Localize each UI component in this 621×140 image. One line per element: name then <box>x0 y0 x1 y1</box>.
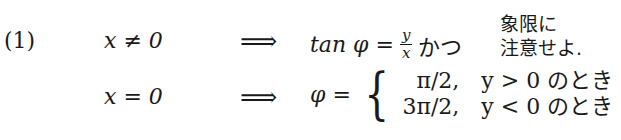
quadrant-note: 象限に 注意せよ. <box>500 12 582 60</box>
fraction-numerator: y <box>400 28 412 45</box>
item-number: (1) <box>4 28 35 53</box>
connector-katsu: かつ <box>418 29 462 61</box>
fraction-y-over-x: y x <box>400 28 412 61</box>
case-value: 3π/2, <box>402 94 459 120</box>
left-brace-icon: { <box>364 66 389 122</box>
cases-list: π/2, y > 0 のとき 3π/2, y < 0 のとき <box>402 68 613 120</box>
case-condition: y < 0 のとき <box>481 94 613 120</box>
note-line-2: 注意せよ. <box>500 36 582 60</box>
implies-arrow-icon: ⟹ <box>240 82 277 112</box>
phi-lhs: φ = <box>310 82 351 107</box>
condition-x-zero: x = 0 <box>104 84 163 109</box>
result-phi-cases: φ = { π/2, y > 0 のとき 3π/2, y < 0 のとき <box>310 66 613 122</box>
condition-x-nonzero: x ≠ 0 <box>104 28 163 53</box>
tan-phi-lhs: tan φ = <box>310 32 394 57</box>
result-tan-phi: tan φ = y x かつ <box>310 28 462 61</box>
case-condition: y > 0 のとき <box>481 68 613 94</box>
implies-arrow-icon: ⟹ <box>240 26 277 56</box>
fraction-denominator: x <box>402 45 410 61</box>
case-value: π/2, <box>402 68 459 94</box>
note-line-1: 象限に <box>500 12 582 36</box>
